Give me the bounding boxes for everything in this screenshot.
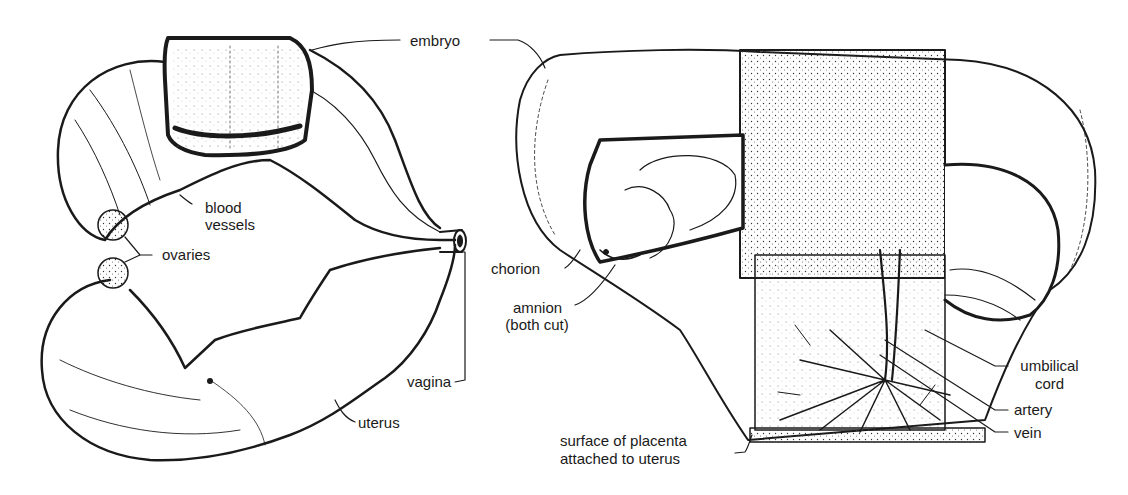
label-vagina: vagina bbox=[407, 373, 451, 390]
label-placenta-line2: attached to uterus bbox=[560, 450, 680, 467]
lower-ovary bbox=[98, 258, 128, 288]
label-blood-vessels-line1: blood bbox=[205, 199, 242, 216]
label-chorion: chorion bbox=[491, 260, 540, 277]
label-artery: artery bbox=[1014, 401, 1052, 418]
label-uterus: uterus bbox=[358, 414, 400, 431]
placenta-top-section bbox=[740, 50, 945, 278]
label-amnion-line2: (both cut) bbox=[497, 316, 577, 333]
label-blood-vessels-line2: vessels bbox=[205, 216, 255, 233]
upper-ovary bbox=[98, 210, 128, 240]
label-ovaries: ovaries bbox=[162, 246, 210, 263]
label-amnion-line1: amnion bbox=[505, 299, 570, 316]
label-umbilical-line2: cord bbox=[1012, 375, 1087, 392]
label-vein: vein bbox=[1014, 424, 1042, 441]
label-umbilical-line1: umbilical bbox=[1012, 357, 1087, 374]
label-embryo: embryo bbox=[410, 32, 460, 49]
cutaway-drawing bbox=[490, 40, 1095, 453]
label-placenta-line1: surface of placenta bbox=[560, 432, 687, 449]
uterus-drawing bbox=[42, 38, 466, 460]
